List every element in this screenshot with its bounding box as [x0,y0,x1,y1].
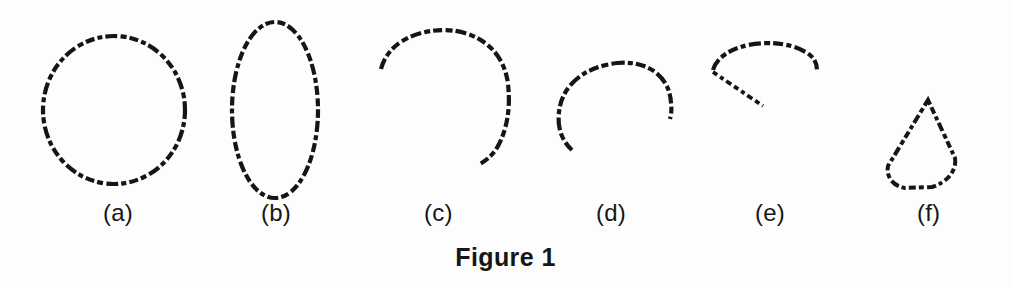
shape-e-arc [713,43,817,72]
figure-caption: Figure 1 [0,243,1011,272]
shape-e-arc-with-tail [713,43,817,106]
panel-label-e: (e) [755,199,785,227]
shape-f-outline [888,100,956,188]
shape-a-circle [43,36,185,184]
shape-c-outline [381,30,509,165]
shape-b-outline [232,22,318,198]
panel-label-f: (f) [917,199,940,227]
panel-label-b: (b) [261,199,291,227]
shape-e-tail [713,72,763,106]
shape-d-outline [559,63,672,150]
panel-label-c: (c) [424,199,453,227]
panel-label-d: (d) [596,199,626,227]
panel-label-a: (a) [103,199,133,227]
figure-page: (a) (b) (c) (d) (e) (f) Figure 1 [0,0,1011,287]
shape-d-open-arc [559,63,672,150]
shape-c-open-arc [381,30,509,165]
shape-a-outline [43,36,185,184]
shape-b-ellipse [232,22,318,198]
shape-f-cone [888,100,956,188]
